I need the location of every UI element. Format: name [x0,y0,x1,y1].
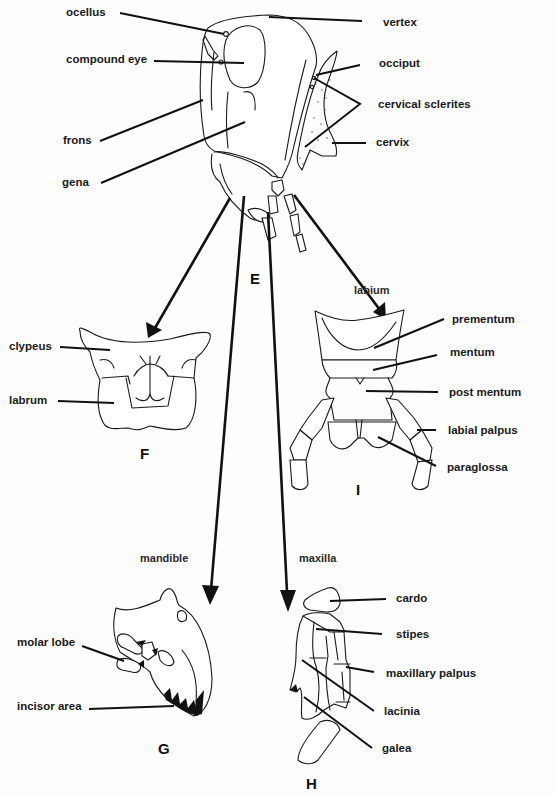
figure-label-f: F [140,446,149,461]
figure-label-g: G [158,741,170,756]
labium-drawing [290,310,432,490]
label-cardo: cardo [396,593,427,605]
label-galea: galea [382,743,411,755]
label-stipes: stipes [396,629,429,641]
label-gena: gena [62,177,89,189]
label-incisor-area: incisor area [17,701,82,713]
label-paraglossa: paraglossa [447,462,508,474]
label-molar-lobe: molar lobe [17,637,75,649]
label-labrum: labrum [9,395,47,407]
subtitle-maxilla: maxilla [299,553,336,564]
label-cervical-sclerites: cervical sclerites [378,99,471,111]
label-post-mentum: post mentum [449,387,521,399]
figure-label-e: E [250,271,260,286]
maxilla-leader-lines [302,599,386,748]
labrum-drawing [79,328,210,430]
figure-label-i: I [356,482,360,497]
label-clypeus: clypeus [9,341,52,353]
label-prementum: prementum [452,314,515,326]
label-cervix: cervix [376,137,409,149]
mandible-drawing [114,589,212,716]
maxilla-drawing [290,588,350,764]
subtitle-labium: labium [354,285,389,296]
label-vertex: vertex [383,17,417,29]
label-frons: frons [63,135,92,147]
label-lacinia: lacinia [384,706,420,718]
figure-label-h: H [306,776,317,791]
label-mentum: mentum [450,347,495,359]
label-maxillary-palpus: maxillary palpus [386,668,476,680]
label-ocellus: ocellus [66,7,106,19]
label-occiput: occiput [379,58,420,70]
label-labial-palpus: labial palpus [448,425,518,437]
label-compound-eye: compound eye [66,54,147,66]
subtitle-mandible: mandible [140,553,188,564]
